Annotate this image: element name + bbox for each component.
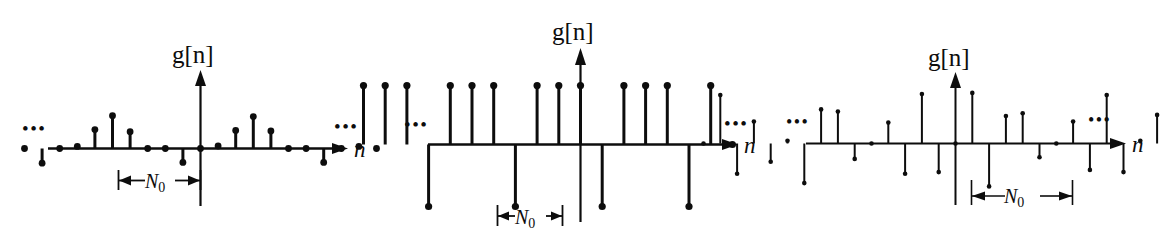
panel-3-period-label: N0 [1003, 185, 1024, 210]
panel-3-g-axis-arrowhead [950, 72, 961, 88]
stem [268, 127, 275, 148]
stem-marker [936, 170, 941, 175]
panel-3-period-annotation: N0 [972, 180, 1073, 210]
panel-2-right-ellipsis: ••• [724, 113, 748, 134]
panel-3-right-ellipsis: ••• [1088, 110, 1111, 130]
stem [1020, 111, 1025, 144]
stem-marker [250, 113, 257, 120]
stem-marker [1104, 93, 1109, 98]
stem-marker [599, 203, 606, 210]
stem [555, 82, 562, 145]
stem-marker [718, 93, 723, 98]
stem [1088, 144, 1093, 173]
panel-2-period-annotation: N0 [498, 205, 563, 231]
stem [1071, 119, 1076, 143]
stem [920, 92, 925, 144]
stem [425, 145, 432, 211]
panel-3-period-arrowhead-left [972, 192, 985, 201]
stem-marker [425, 203, 432, 210]
stem [970, 91, 975, 144]
stem [232, 127, 239, 149]
stem-marker [1121, 170, 1126, 175]
stem [987, 144, 992, 189]
panel-1-period-label: N0 [144, 170, 165, 195]
stem-marker [970, 91, 975, 96]
stem-marker [768, 159, 773, 164]
stem-marker [555, 82, 562, 89]
stem [512, 145, 519, 211]
stem [468, 82, 475, 145]
stem [718, 93, 723, 144]
stem [819, 107, 824, 143]
stem [785, 139, 790, 144]
stem-marker [127, 128, 134, 135]
panel-1-period-label-sub: 0 [158, 180, 165, 195]
stem [127, 128, 134, 148]
stem-marker [180, 159, 187, 166]
stem-marker [360, 82, 367, 89]
stem-marker [642, 82, 649, 89]
panel-1-period-arrowhead-right [188, 176, 200, 186]
stem-marker [836, 109, 841, 114]
panel-2-n-axis-arrowhead [722, 139, 738, 150]
stem-marker [802, 181, 807, 186]
stem-marker [620, 82, 627, 89]
stem [936, 144, 941, 175]
panel-3-g-label-text: g[n] [928, 44, 970, 71]
panel-2: g[n] n ••• ••• N0 [360, 18, 756, 231]
stem [320, 149, 327, 166]
stem-marker [1020, 111, 1025, 116]
stem-marker [1037, 155, 1042, 160]
stem-marker [785, 139, 790, 144]
stem-marker [920, 92, 925, 97]
stem [685, 145, 692, 211]
stem-marker [109, 112, 116, 119]
stem [620, 82, 627, 145]
panel-1-left-ellipsis: ••• [22, 118, 46, 139]
stem-marker [903, 172, 908, 177]
panel-3-left-ellipsis: ••• [786, 112, 809, 132]
panel-1-n-axis-arrowhead [332, 143, 348, 154]
stem-marker [92, 126, 99, 133]
stem [1004, 114, 1009, 144]
stem-marker [664, 82, 671, 89]
stem [447, 82, 454, 145]
panel-2-period-arrowhead-left [498, 212, 509, 221]
panel-2-period-label: N0 [514, 206, 535, 231]
stem [701, 141, 706, 146]
stem [1121, 144, 1126, 175]
stem [490, 82, 497, 145]
stem [21, 145, 28, 152]
panel-2-period-arrowhead-right [551, 212, 562, 221]
stem-marker [320, 159, 327, 166]
stem [92, 126, 99, 148]
stem-marker [39, 160, 46, 167]
panel-3-period-arrowhead-right [1059, 192, 1072, 201]
stem [664, 82, 671, 145]
stem-marker [232, 127, 239, 134]
stem [836, 109, 841, 143]
stem-marker [490, 82, 497, 89]
stem-marker [819, 107, 824, 112]
stem [802, 144, 807, 186]
panel-3-stems [701, 91, 1159, 189]
panel-1-g-label: g[n] [172, 41, 214, 68]
stem-marker [447, 82, 454, 89]
stem [1155, 113, 1160, 144]
stem-marker [403, 82, 410, 89]
stem [903, 144, 908, 177]
stem [373, 145, 380, 152]
panel-2-g-label: g[n] [552, 18, 594, 45]
panel-2-period-label-sub: 0 [528, 216, 535, 231]
stem-marker [701, 141, 706, 146]
stem [768, 144, 773, 165]
stem-marker [1155, 113, 1160, 118]
stem-marker [1088, 168, 1093, 173]
panel-3-n-label: n [1132, 132, 1144, 157]
stem-marker [373, 145, 380, 152]
stem-marker [534, 82, 541, 89]
panel-2-g-axis-arrowhead [575, 48, 586, 65]
stem-marker [1004, 114, 1009, 119]
stem [180, 149, 187, 166]
stem-marker [707, 82, 714, 89]
